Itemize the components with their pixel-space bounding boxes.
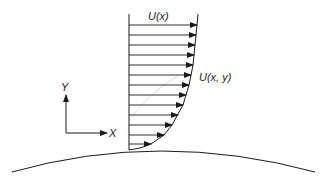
profile-velocity-label: U(x, y) — [199, 72, 231, 83]
faint-arc — [131, 76, 178, 118]
curved-surface — [12, 151, 315, 172]
boundary-layer-diagram — [0, 0, 325, 182]
freestream-velocity-label: U(x) — [148, 11, 169, 22]
y-axis-label: Y — [61, 82, 68, 93]
velocity-arrows — [129, 25, 197, 144]
x-axis-label: X — [109, 128, 116, 139]
velocity-profile-curve — [129, 14, 198, 150]
